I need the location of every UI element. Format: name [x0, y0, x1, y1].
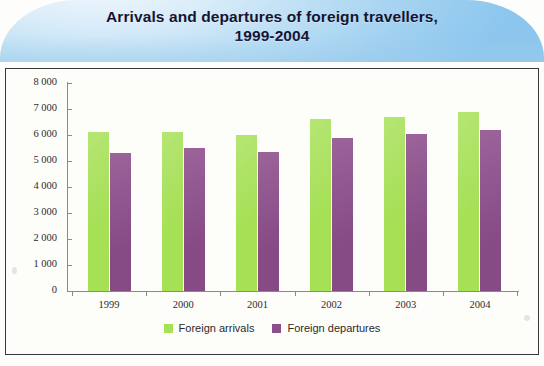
x-axis-tick — [443, 291, 444, 296]
page-title: Arrivals and departures of foreign trave… — [0, 7, 544, 45]
x-axis-tick — [72, 291, 73, 296]
y-axis-label: 1 000 — [0, 258, 57, 269]
bar-2002-departures — [332, 138, 353, 291]
legend-item-departures: Foreign departures — [272, 322, 380, 334]
page-title-line-1: Arrivals and departures of foreign trave… — [106, 8, 438, 25]
x-axis-label-2000: 2000 — [148, 299, 218, 310]
legend-swatch-departures-icon — [272, 324, 281, 333]
chart-frame: 01 0002 0003 0004 0005 0006 0007 0008 00… — [5, 68, 539, 355]
bar-2003-departures — [406, 134, 427, 291]
bar-1999-departures — [110, 153, 131, 291]
bar-2000-arrivals — [162, 132, 183, 291]
bar-2003-arrivals — [384, 117, 405, 291]
bar-1999-arrivals — [88, 132, 109, 291]
x-axis-tick — [517, 291, 518, 296]
x-axis-label-2001: 2001 — [222, 299, 292, 310]
page-root: Arrivals and departures of foreign trave… — [0, 0, 544, 366]
plot-area — [72, 83, 517, 291]
bar-2000-departures — [184, 148, 205, 291]
x-axis-label-1999: 1999 — [74, 299, 144, 310]
y-axis-label: 8 000 — [0, 76, 57, 87]
y-axis-label: 0 — [0, 284, 57, 295]
y-axis-label: 7 000 — [0, 102, 57, 113]
scan-speck — [12, 267, 17, 274]
scan-speck — [524, 315, 530, 321]
bar-2001-arrivals — [236, 135, 257, 291]
y-axis-label: 3 000 — [0, 206, 57, 217]
chart-legend: Foreign arrivals Foreign departures — [6, 322, 538, 334]
bar-2002-arrivals — [310, 119, 331, 291]
title-banner: Arrivals and departures of foreign trave… — [0, 0, 544, 62]
x-axis-tick — [369, 291, 370, 296]
legend-item-arrivals: Foreign arrivals — [164, 322, 255, 334]
x-axis-line — [67, 291, 519, 292]
page-title-line-2: 1999-2004 — [0, 26, 544, 45]
legend-swatch-arrivals-icon — [164, 324, 173, 333]
y-axis-label: 4 000 — [0, 180, 57, 191]
x-axis-label-2003: 2003 — [371, 299, 441, 310]
x-axis-tick — [295, 291, 296, 296]
x-axis-label-2004: 2004 — [445, 299, 515, 310]
x-axis-label-2002: 2002 — [297, 299, 367, 310]
legend-label-departures: Foreign departures — [287, 322, 380, 334]
bar-2001-departures — [258, 152, 279, 291]
x-axis-tick — [220, 291, 221, 296]
y-axis-label: 6 000 — [0, 128, 57, 139]
bar-2004-departures — [480, 130, 501, 291]
legend-label-arrivals: Foreign arrivals — [179, 322, 255, 334]
y-axis-label: 5 000 — [0, 154, 57, 165]
bar-2004-arrivals — [458, 112, 479, 291]
x-axis-tick — [146, 291, 147, 296]
y-axis-label: 2 000 — [0, 232, 57, 243]
